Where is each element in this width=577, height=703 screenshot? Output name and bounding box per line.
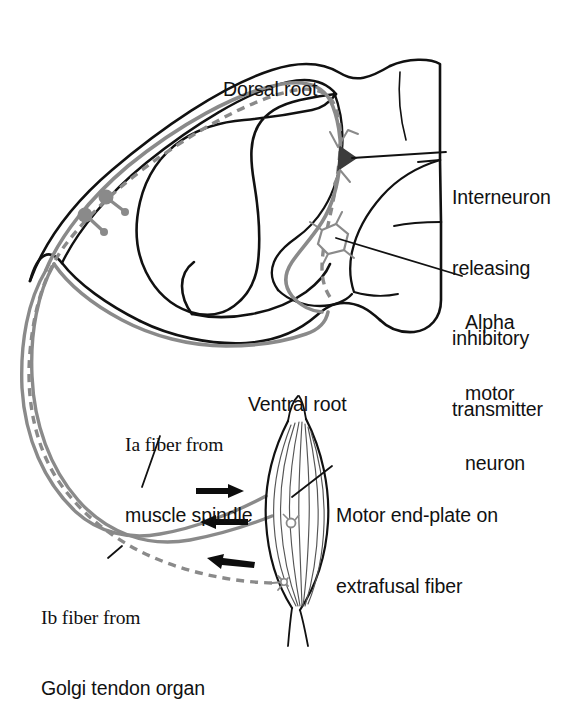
label-interneuron-line1: Interneuron bbox=[452, 186, 551, 210]
motor-end-plate bbox=[283, 514, 299, 528]
label-ventral-root-line1: Ventral root bbox=[248, 393, 347, 417]
label-dorsal-root: Dorsal root bbox=[223, 31, 317, 149]
label-ia-fiber-line2: muscle spindle bbox=[125, 504, 253, 528]
label-ia-fiber-line1: Ia fiber from bbox=[125, 433, 253, 457]
label-ib-fiber-line1: Ib fiber from bbox=[41, 606, 205, 630]
label-ventral-root: Ventral root bbox=[248, 346, 347, 464]
label-motor-endplate-line1: Motor end-plate on bbox=[336, 504, 498, 528]
golgi-tendon-organ-ending bbox=[272, 576, 288, 590]
leader-ib-fiber bbox=[108, 546, 122, 558]
label-ib-fiber-from-golgi-tendon-organ: Ib fiber from Golgi tendon organ bbox=[41, 559, 205, 703]
leader-alpha-motor bbox=[336, 238, 462, 276]
label-alpha-motor-line2: motor bbox=[465, 382, 525, 406]
leader-interneuron bbox=[352, 152, 446, 158]
label-ib-fiber-line2: Golgi tendon organ bbox=[41, 677, 205, 701]
label-ia-fiber-from-muscle-spindle: Ia fiber from muscle spindle bbox=[125, 386, 253, 574]
label-alpha-motor-line1: Alpha bbox=[465, 311, 525, 335]
label-motor-endplate-line2: extrafusal fiber bbox=[336, 575, 498, 599]
label-motor-end-plate-on-extrafusal-fiber: Motor end-plate on extrafusal fiber bbox=[336, 457, 498, 645]
label-dorsal-root-line1: Dorsal root bbox=[223, 78, 317, 102]
